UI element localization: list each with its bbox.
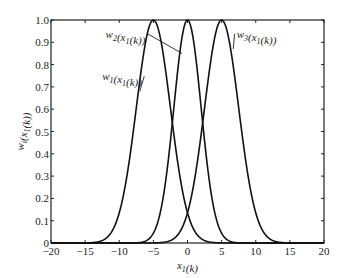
curve-w2 [51,20,324,243]
x-axis-label: x1(k) [176,259,198,275]
y-tick-label: 0.6 [35,103,49,115]
y-tick-label: 0.3 [35,170,49,182]
x-tick-label: 0 [185,245,191,257]
y-tick-label: 0.5 [35,126,49,138]
x-tick-label: 20 [319,245,331,257]
x-tick-label: 10 [250,245,262,257]
plot-area-border [51,20,324,243]
curve-w1 [51,20,324,243]
curves [51,20,324,243]
y-tick-label: 0.9 [35,36,49,48]
membership-function-chart: −20−15−10−505101520 00.10.20.30.40.50.60… [0,0,350,278]
annotation-w3: w3(x1(k)) [237,28,277,47]
y-tick-label: 0.1 [35,215,49,227]
x-tick-label: 5 [219,245,225,257]
y-tick-label: 0.4 [35,148,49,160]
y-tick-label: 0.7 [35,81,49,93]
y-tick-label: 1.0 [35,14,49,26]
x-tick-label: 15 [284,245,296,257]
y-tick-label: 0 [44,237,50,249]
curve-w3 [51,20,324,243]
x-tick-label: −5 [148,245,160,257]
plot-frame [51,20,324,243]
y-tick-label: 0.8 [35,59,49,71]
annotation-w1: w1(x1(k)) [102,70,142,89]
y-tick-label: 0.2 [35,192,49,204]
annotation-w2: w2(x1(k)) [106,28,146,47]
x-tick-label: −10 [111,245,129,257]
y-axis-label: wi(x1(k)) [14,112,33,150]
x-tick-label: −15 [77,245,95,257]
x-axis-ticks: −20−15−10−505101520 [42,20,330,257]
curve-annotations: w1(x1(k))w2(x1(k))w3(x1(k)) [102,28,277,92]
annotation-leader-w2 [148,34,182,54]
annotation-leader-w3 [233,34,234,49]
